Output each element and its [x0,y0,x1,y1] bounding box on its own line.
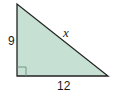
hypotenuse-label: x [62,25,69,40]
vertical-leg-label: 9 [8,34,15,48]
horizontal-leg-label: 12 [57,79,71,93]
triangle-canvas: 9 x 12 [0,0,113,97]
triangle-shape [17,4,108,76]
right-triangle-figure: 9 x 12 [0,0,113,97]
